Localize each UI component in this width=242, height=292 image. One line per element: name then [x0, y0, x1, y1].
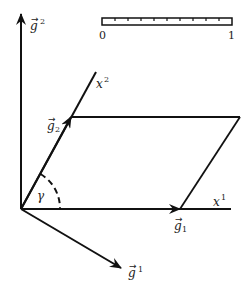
- scale-label-1: 1: [228, 29, 235, 42]
- svg-text:→: →: [31, 14, 39, 24]
- svg-text:→: →: [129, 261, 137, 271]
- vector-g-sub-2-arrow: [21, 117, 71, 209]
- svg-text:1: 1: [221, 193, 226, 202]
- angle-gamma-label: γ: [37, 189, 45, 203]
- vector-g-sup-1-arrow: [21, 209, 121, 268]
- vector-g-sub-2-label: g → 2: [47, 114, 60, 134]
- svg-text:x: x: [213, 195, 220, 209]
- svg-text:→: →: [175, 214, 183, 224]
- vector-g-sup-2-label: g → 2: [30, 14, 45, 33]
- axis-x1-label: x 1: [213, 193, 226, 209]
- scale-bar: 0 1: [99, 18, 235, 42]
- svg-text:x: x: [96, 77, 103, 91]
- svg-text:2: 2: [55, 125, 60, 134]
- axis-x2-label: x 2: [96, 75, 109, 91]
- svg-text:1: 1: [138, 265, 143, 274]
- svg-text:2: 2: [104, 75, 109, 84]
- scale-label-0: 0: [99, 29, 106, 42]
- svg-text:→: →: [48, 114, 56, 124]
- parallelogram-right-edge: [180, 117, 240, 209]
- oblique-coordinate-diagram: 0 1 g → 2 x 2 g → 2 x 1 g → 1 g → 1: [0, 0, 242, 292]
- svg-text:1: 1: [182, 225, 187, 234]
- vector-g-sup-1-label: g → 1: [128, 261, 143, 280]
- svg-text:2: 2: [40, 17, 45, 26]
- vector-g-sub-1-label: g → 1: [174, 214, 187, 234]
